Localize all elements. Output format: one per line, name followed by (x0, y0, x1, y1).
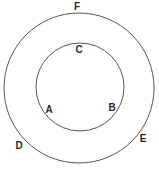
diagram-canvas: F C A B D E (0, 0, 159, 172)
label-b: B (108, 102, 115, 113)
inner-circle (36, 43, 124, 131)
outer-circle (4, 13, 154, 163)
label-f: F (74, 1, 80, 12)
label-c: C (75, 44, 82, 55)
label-d: D (15, 140, 22, 151)
concentric-circles-diagram: F C A B D E (0, 0, 159, 172)
label-e: E (140, 133, 147, 144)
label-a: A (45, 104, 52, 115)
